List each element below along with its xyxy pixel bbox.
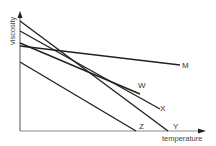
- label-M: M: [182, 61, 189, 70]
- viscosity-temperature-chart: M W X Z Y temperature viscosity: [0, 0, 216, 146]
- label-Z: Z: [139, 122, 144, 131]
- line-Z: [20, 62, 136, 131]
- line-M: [20, 46, 180, 65]
- label-W: W: [138, 81, 146, 90]
- x-axis-label: temperature: [162, 134, 202, 143]
- label-Y: Y: [173, 122, 179, 131]
- line-X: [20, 31, 160, 109]
- y-axis-arrow-icon: [18, 11, 23, 18]
- label-X: X: [160, 104, 166, 113]
- y-axis-label: viscosity: [8, 16, 17, 45]
- line-W: [20, 43, 140, 94]
- x-axis-arrow-icon: [198, 129, 206, 134]
